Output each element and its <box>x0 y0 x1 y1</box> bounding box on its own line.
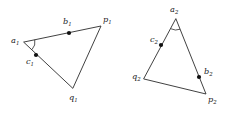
figure-canvas: a1p1q1b1c1a2p2q2c2b2 <box>0 0 230 114</box>
point-label-p2: p2 <box>208 94 217 105</box>
marker-dot-c1 <box>34 53 38 57</box>
point-label-p1: p1 <box>103 14 112 25</box>
point-label-b2: b2 <box>204 66 213 77</box>
marker-dot-b2 <box>197 75 201 79</box>
left-triangle-angle-arc-a1 <box>32 40 35 50</box>
marker-dot-b1 <box>67 31 71 35</box>
point-label-a1: a1 <box>11 35 19 46</box>
point-label-c1: c1 <box>26 56 34 67</box>
point-label-q1: q1 <box>69 92 78 103</box>
labels-layer: a1p1q1b1c1a2p2q2c2b2 <box>11 4 217 105</box>
shapes-layer <box>24 19 206 94</box>
point-label-b1: b1 <box>63 16 72 27</box>
point-label-q2: q2 <box>132 71 141 82</box>
geometry-figure: a1p1q1b1c1a2p2q2c2b2 <box>0 0 230 114</box>
marker-dot-c2 <box>159 43 163 47</box>
point-label-a2: a2 <box>170 4 179 15</box>
point-label-c2: c2 <box>150 34 159 45</box>
right-triangle-angle-arc-a2 <box>171 29 180 30</box>
